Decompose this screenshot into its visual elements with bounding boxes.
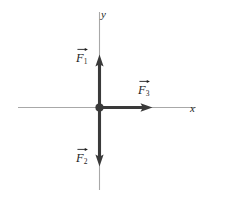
force-label-F3-subscript: 3 <box>146 89 150 98</box>
force-label-F1-subscript: 1 <box>84 57 88 66</box>
y-axis-label: y <box>101 9 106 20</box>
force-label-F3-symbol: F <box>138 83 146 97</box>
force-vector-F3 <box>99 103 153 111</box>
diagram-canvas <box>0 0 226 197</box>
force-label-F3: F3 <box>138 84 150 98</box>
force-vector-diagram: y x F1 F2 F3 <box>0 0 226 197</box>
force-vector-F1 <box>95 55 103 108</box>
force-label-F1: F1 <box>76 52 88 66</box>
force-label-F2-subscript: 2 <box>84 157 88 166</box>
force-vector-F2 <box>95 107 103 167</box>
force-label-F2: F2 <box>76 152 88 166</box>
force-label-F1-symbol: F <box>76 51 84 65</box>
force-label-F2-symbol: F <box>76 151 84 165</box>
x-axis-label: x <box>190 103 195 114</box>
origin-dot <box>95 103 103 111</box>
